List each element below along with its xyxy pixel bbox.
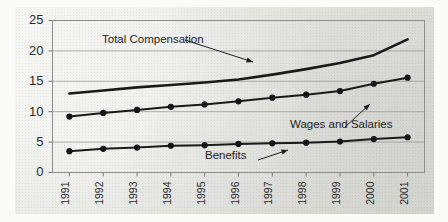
- data-point-marker: [66, 113, 72, 119]
- data-point-marker: [235, 98, 241, 104]
- data-point-marker: [371, 136, 377, 142]
- x-axis-tick-labels: 1991199219931994199519961997199819992000…: [59, 181, 409, 205]
- data-point-marker: [134, 107, 140, 113]
- x-tick-label: 2001: [398, 181, 410, 205]
- data-series-group: [66, 39, 410, 154]
- y-tick-marks: [49, 21, 53, 173]
- x-tick-label: 1998: [296, 181, 308, 205]
- annotation-wages-and-salaries: Wages and Salaries: [290, 104, 393, 130]
- data-point-marker: [168, 104, 174, 110]
- data-point-marker: [66, 148, 72, 154]
- x-tick-label: 1994: [161, 181, 173, 205]
- x-tick-marks: [69, 173, 407, 177]
- x-tick-label: 1995: [195, 181, 207, 205]
- data-point-marker: [371, 81, 377, 87]
- data-point-marker: [337, 88, 343, 94]
- data-point-marker: [100, 146, 106, 152]
- data-point-marker: [303, 140, 309, 146]
- x-tick-label: 1996: [229, 181, 241, 205]
- data-point-marker: [134, 144, 140, 150]
- data-point-marker: [235, 141, 241, 147]
- annotation-total-compensation: Total Compensation: [102, 33, 253, 62]
- y-tick-label: 0: [36, 164, 43, 179]
- data-point-marker: [303, 92, 309, 98]
- annotation-benefits: Benefits: [205, 149, 288, 161]
- y-axis-tick-labels: 0510152025: [29, 12, 43, 179]
- y-tick-label: 10: [29, 104, 43, 119]
- data-point-marker: [202, 101, 208, 107]
- annotation-arrowhead: [246, 58, 253, 63]
- data-point-marker: [168, 143, 174, 149]
- series-total-compensation: [69, 39, 407, 93]
- y-tick-label: 25: [29, 12, 43, 27]
- chart-figure: 0510152025 19911992199319941995199619971…: [0, 0, 448, 222]
- data-point-marker: [404, 134, 410, 140]
- data-point-marker: [269, 140, 275, 146]
- x-tick-label: 1992: [93, 181, 105, 205]
- annotation-label: Total Compensation: [102, 33, 204, 45]
- series-line: [69, 78, 407, 117]
- x-tick-label: 1997: [262, 181, 274, 205]
- y-tick-label: 15: [29, 73, 43, 88]
- annotation-label: Wages and Salaries: [290, 118, 393, 130]
- series-line: [69, 39, 407, 93]
- x-tick-label: 1993: [127, 181, 139, 205]
- y-tick-label: 5: [36, 134, 43, 149]
- y-tick-label: 20: [29, 43, 43, 58]
- annotation-arrowhead: [281, 150, 288, 155]
- x-tick-label: 1999: [330, 181, 342, 205]
- data-point-marker: [404, 75, 410, 81]
- data-point-marker: [202, 142, 208, 148]
- x-tick-label: 1991: [59, 181, 71, 205]
- line-chart: 0510152025 19911992199319941995199619971…: [0, 0, 448, 222]
- data-point-marker: [337, 138, 343, 144]
- data-point-marker: [100, 110, 106, 116]
- annotation-label: Benefits: [205, 149, 247, 161]
- data-point-marker: [269, 95, 275, 101]
- x-tick-label: 2000: [364, 181, 376, 205]
